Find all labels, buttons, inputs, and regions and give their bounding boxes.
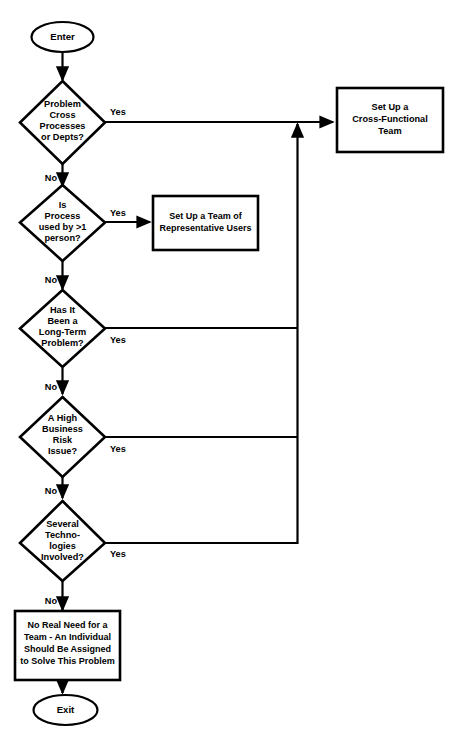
cross-functional-line-1: Set Up a <box>372 102 410 112</box>
node-representative-users: Set Up a Team of Representative Users <box>153 196 258 250</box>
decision3-line-4: Problem? <box>41 338 84 348</box>
node-cross-functional-team: Set Up a Cross-Functional Team <box>337 88 443 152</box>
decision3-line-1: Has It <box>50 305 75 315</box>
edge-label-decision2-no: No <box>45 275 58 285</box>
end-label: Exit <box>57 704 75 715</box>
cross-functional-line-2: Cross-Functional <box>352 114 428 124</box>
decision5-line-1: Several <box>46 519 79 529</box>
node-start: Enter <box>32 22 94 52</box>
edge-label-decision2-yes: Yes <box>110 208 126 218</box>
decision1-line-3: Processes <box>40 121 86 131</box>
decision4-line-2: Business <box>42 424 83 434</box>
node-decision3: Has It Been a Long-Term Problem? <box>20 290 105 367</box>
decision5-line-3: logies <box>49 541 76 551</box>
edge-decision5-yes-to-riser <box>105 124 298 543</box>
decision5-line-2: Techno- <box>45 530 80 540</box>
node-decision1: Problem Cross Processes or Depts? <box>20 81 105 164</box>
no-team-line-3: Should Be Assigned <box>24 644 111 654</box>
edge-label-decision4-no: No <box>45 486 58 496</box>
decision2-line-2: Process <box>45 211 81 221</box>
rep-users-line-1: Set Up a Team of <box>169 211 242 221</box>
node-decision2: Is Process used by >1 person? <box>20 185 105 261</box>
rep-users-line-2: Representative Users <box>159 223 251 233</box>
decision2-line-4: person? <box>44 233 81 243</box>
cross-functional-line-3: Team <box>378 126 401 136</box>
edge-label-decision1-yes: Yes <box>110 107 126 117</box>
no-team-line-4: to Solve This Problem <box>20 656 115 666</box>
decision5-line-4: Involved? <box>41 552 84 562</box>
node-decision5: Several Techno- logies Involved? <box>20 501 105 581</box>
node-decision4: A High Business Risk Issue? <box>20 397 105 477</box>
decision1-line-1: Problem <box>44 99 81 109</box>
decision2-line-3: used by >1 <box>39 222 87 232</box>
edge-label-decision3-yes: Yes <box>110 335 126 345</box>
decision1-line-2: Cross <box>49 110 75 120</box>
decision3-line-2: Been a <box>47 316 78 326</box>
start-label: Enter <box>50 31 75 42</box>
decision4-line-4: Issue? <box>48 446 77 456</box>
no-team-line-2: Team - An Individual <box>24 632 111 642</box>
flowchart-canvas: Enter Problem Cross Processes or Depts? … <box>0 0 457 743</box>
edge-label-decision4-yes: Yes <box>110 444 126 454</box>
decision3-line-3: Long-Term <box>39 327 86 337</box>
no-team-line-1: No Real Need for a <box>27 620 108 630</box>
decision4-line-1: A High <box>48 413 78 423</box>
flowchart-svg: Enter Problem Cross Processes or Depts? … <box>0 0 457 743</box>
node-no-team-needed: No Real Need for a Team - An Individual … <box>15 611 120 680</box>
decision4-line-3: Risk <box>53 435 73 445</box>
edge-label-decision1-no: No <box>45 173 58 183</box>
edge-label-decision5-no: No <box>45 596 58 606</box>
decision1-line-4: or Depts? <box>41 132 84 142</box>
edge-label-decision3-no: No <box>45 382 58 392</box>
decision2-line-1: Is <box>59 200 67 210</box>
node-end: Exit <box>34 695 98 725</box>
edge-label-decision5-yes: Yes <box>110 549 126 559</box>
